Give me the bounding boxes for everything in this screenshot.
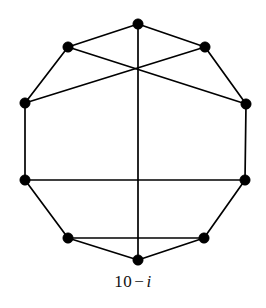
caption-variable: i xyxy=(146,272,151,291)
graph-vertex-left xyxy=(20,175,30,185)
graph-vertex-lower-right xyxy=(199,233,209,243)
vertices-layer xyxy=(20,19,251,265)
graph-vertex-upper-right xyxy=(200,42,210,52)
graph-vertex-upper-left xyxy=(63,42,73,52)
graph-edge-v9-v0 xyxy=(68,24,138,47)
graph-vertex-left-upper xyxy=(20,98,30,108)
decagon-graph-svg xyxy=(0,0,266,272)
edges-layer xyxy=(25,24,246,260)
graph-vertex-lower-left xyxy=(63,233,73,243)
graph-edge-v6-v7 xyxy=(25,180,68,238)
graph-edge-v0-v1 xyxy=(138,24,205,47)
figure-caption: 10−i xyxy=(0,272,266,292)
graph-edge-v3-v4 xyxy=(204,180,245,238)
graph-edge-v4-v5 xyxy=(138,238,204,260)
graph-vertex-bottom xyxy=(133,255,143,265)
graph-edge-v2-v3 xyxy=(245,104,246,180)
caption-operator: − xyxy=(132,272,146,291)
caption-number: 10 xyxy=(114,272,132,291)
graph-edge-v8-v9 xyxy=(25,47,68,103)
graph-vertex-right-upper xyxy=(241,99,251,109)
graph-edge-v9-v2 xyxy=(68,47,246,104)
graph-edge-v5-v6 xyxy=(68,238,138,260)
graph-vertex-top xyxy=(133,19,143,29)
graph-edge-v1-v2 xyxy=(205,47,246,104)
figure-container: 10−i xyxy=(0,0,266,308)
graph-edge-v8-v1 xyxy=(25,47,205,103)
graph-vertex-right xyxy=(240,175,250,185)
